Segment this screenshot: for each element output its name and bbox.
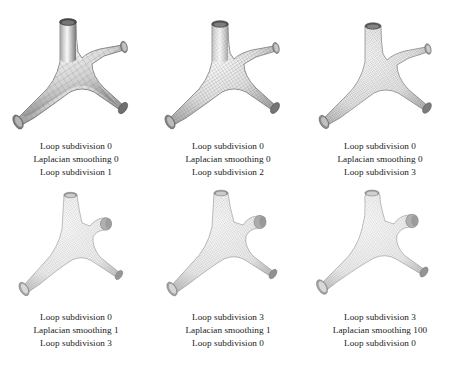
mesh-render-2 [152,0,304,140]
caption-line-3: Loop subdivision 3 [304,166,456,179]
mesh-render-5 [152,181,304,309]
caption-line-1: Loop subdivision 0 [304,140,456,153]
panel-caption-5: Loop subdivision 3 Laplacian smoothing 1… [152,309,304,351]
caption-line-3: Loop subdivision 1 [0,166,152,179]
caption-line-2: Laplacian smoothing 0 [0,153,152,166]
caption-line-3: Loop subdivision 0 [304,337,456,350]
panel-grid: Loop subdivision 0 Laplacian smoothing 0… [0,0,456,378]
caption-line-2: Laplacian smoothing 1 [0,324,152,337]
panel-caption-4: Loop subdivision 0 Laplacian smoothing 1… [0,309,152,351]
caption-line-1: Loop subdivision 3 [304,311,456,324]
panel-top-right: Loop subdivision 0 Laplacian smoothing 0… [304,0,456,181]
panel-caption-2: Loop subdivision 0 Laplacian smoothing 0… [152,140,304,180]
panel-top-left: Loop subdivision 0 Laplacian smoothing 0… [0,0,152,181]
panel-bottom-left: Loop subdivision 0 Laplacian smoothing 1… [0,181,152,378]
caption-line-3: Loop subdivision 0 [152,337,304,350]
mesh-render-6 [304,181,456,309]
panel-top-center: Loop subdivision 0 Laplacian smoothing 0… [152,0,304,181]
figure-panel-grid: Loop subdivision 0 Laplacian smoothing 0… [0,0,456,378]
panel-caption-3: Loop subdivision 0 Laplacian smoothing 0… [304,140,456,180]
caption-line-1: Loop subdivision 0 [0,311,152,324]
panel-caption-1: Loop subdivision 0 Laplacian smoothing 0… [0,140,152,180]
caption-line-1: Loop subdivision 0 [0,140,152,153]
caption-line-1: Loop subdivision 0 [152,140,304,153]
panel-bottom-center: Loop subdivision 3 Laplacian smoothing 1… [152,181,304,378]
caption-line-3: Loop subdivision 2 [152,166,304,179]
panel-bottom-right: Loop subdivision 3 Laplacian smoothing 1… [304,181,456,378]
panel-caption-6: Loop subdivision 3 Laplacian smoothing 1… [304,309,456,351]
mesh-render-3 [304,0,456,140]
caption-line-2: Laplacian smoothing 0 [304,153,456,166]
mesh-render-1 [0,0,152,140]
caption-line-2: Laplacian smoothing 1 [152,324,304,337]
mesh-render-4 [0,181,152,309]
caption-line-2: Laplacian smoothing 100 [304,324,456,337]
caption-line-2: Laplacian smoothing 0 [152,153,304,166]
caption-line-3: Loop subdivision 3 [0,337,152,350]
caption-line-1: Loop subdivision 3 [152,311,304,324]
